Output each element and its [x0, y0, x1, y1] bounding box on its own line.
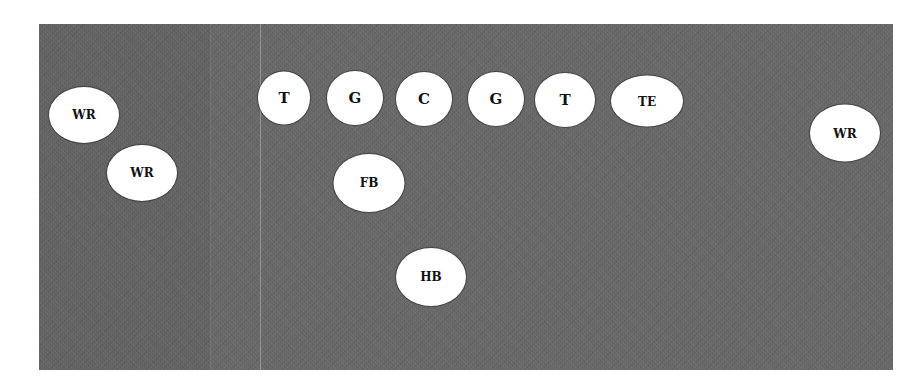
player-right-guard: G: [468, 72, 524, 126]
player-fullback: FB: [334, 154, 405, 212]
player-tight-end: TE: [611, 76, 683, 127]
player-label: C: [418, 92, 430, 107]
player-label: WR: [833, 127, 856, 139]
football-field: [39, 24, 893, 370]
player-center: C: [396, 72, 452, 126]
player-wr-left-2: WR: [107, 145, 177, 201]
line-of-scrimmage: [260, 24, 261, 370]
player-halfback: HB: [396, 248, 466, 306]
player-label: T: [559, 93, 570, 108]
player-label: HB: [420, 271, 441, 283]
player-left-tackle: T: [258, 72, 310, 125]
player-label: WR: [130, 167, 153, 179]
player-label: T: [278, 91, 289, 106]
player-left-guard: G: [327, 71, 383, 125]
player-right-tackle: T: [535, 73, 595, 127]
player-label: WR: [72, 109, 95, 121]
player-label: TE: [638, 95, 656, 107]
player-wr-left-1: WR: [49, 87, 119, 143]
player-label: G: [490, 92, 503, 107]
player-label: G: [349, 91, 362, 106]
faint-yard-line: [210, 24, 211, 370]
player-wr-right: WR: [810, 105, 880, 162]
player-label: FB: [360, 177, 379, 189]
